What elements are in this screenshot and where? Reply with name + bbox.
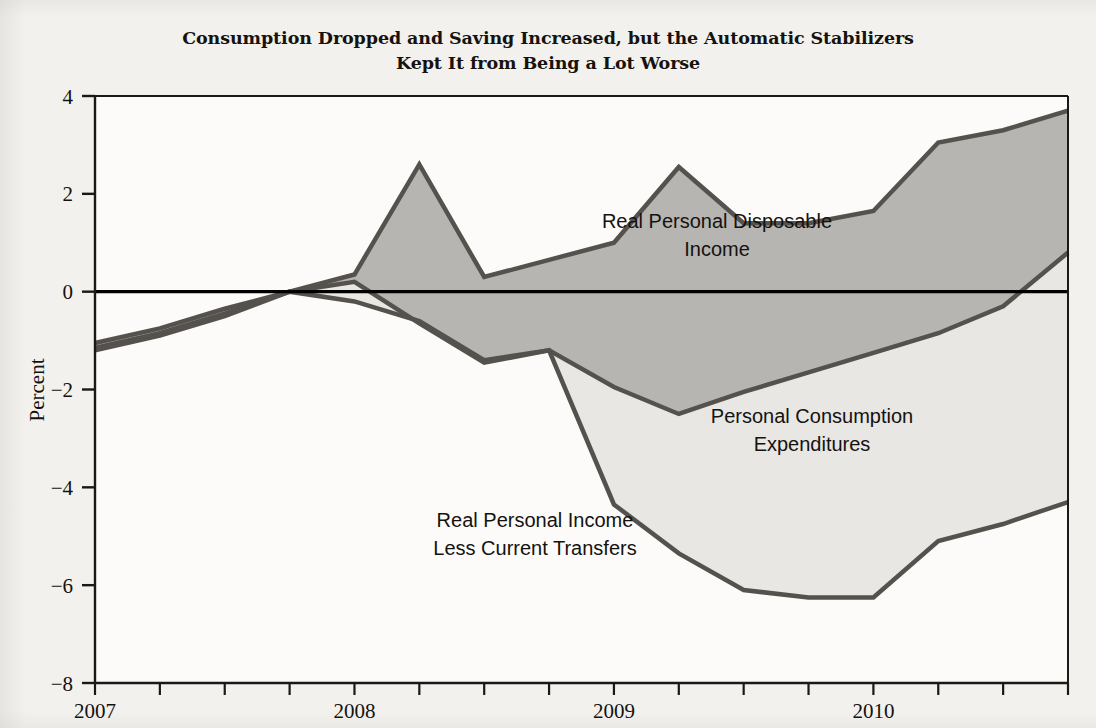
y-axis-tick-label: −6 <box>51 574 73 598</box>
y-axis-tick-label: 0 <box>63 280 74 304</box>
figure-page: Consumption Dropped and Saving Increased… <box>0 0 1096 728</box>
x-axis-tick-label: 2009 <box>593 699 635 723</box>
y-axis-tick-label: −4 <box>51 476 74 500</box>
annotation-pce-line-2: Expenditures <box>754 433 871 455</box>
y-axis-tick-label: 2 <box>63 182 74 206</box>
chart-title: Consumption Dropped and Saving Increased… <box>0 26 1096 76</box>
annotation-less-transfers-line-1: Real Personal Income <box>437 509 634 531</box>
annotation-disposable-income-line-1: Real Personal Disposable <box>602 210 832 232</box>
x-axis-tick-label: 2010 <box>852 699 894 723</box>
x-axis-tick-label: 2008 <box>333 699 375 723</box>
y-axis-tick-label: −8 <box>51 672 73 696</box>
annotation-less-transfers-line-2: Less Current Transfers <box>433 537 636 559</box>
x-axis-ticks: 2007200820092010 <box>74 683 1068 723</box>
chart-title-line-2: Kept It from Being a Lot Worse <box>0 51 1096 76</box>
x-axis-tick-label: 2007 <box>74 699 116 723</box>
line-chart-svg: 420−2−4−6−8 2007200820092010 Percent Rea… <box>0 0 1096 728</box>
annotation-disposable-income-line-2: Income <box>684 238 750 260</box>
chart-title-line-1: Consumption Dropped and Saving Increased… <box>0 26 1096 51</box>
annotation-pce-line-1: Personal Consumption <box>711 405 913 427</box>
plot-area: 420−2−4−6−8 2007200820092010 Percent Rea… <box>0 0 1096 728</box>
y-axis-ticks: 420−2−4−6−8 <box>51 85 95 696</box>
y-axis-tick-label: −2 <box>51 378 73 402</box>
y-axis-tick-label: 4 <box>63 85 74 109</box>
y-axis-title: Percent <box>25 358 49 421</box>
